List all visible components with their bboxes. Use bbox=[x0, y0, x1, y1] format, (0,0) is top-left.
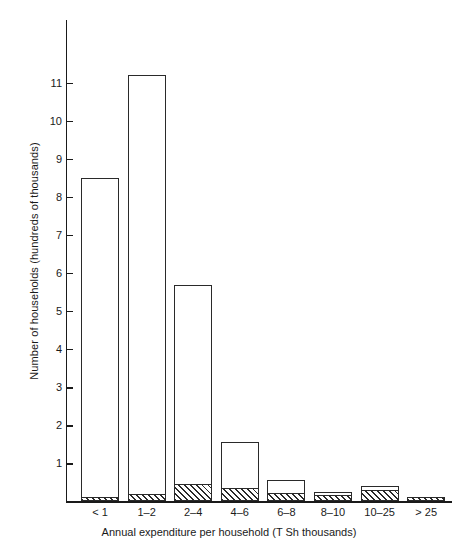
bar-segment-open bbox=[128, 75, 166, 501]
bar-5 bbox=[314, 492, 352, 502]
x-tick-label-1: 1–2 bbox=[123, 507, 170, 518]
y-tick-label: 11 bbox=[51, 77, 62, 88]
y-tick-label: 1 bbox=[56, 458, 62, 469]
x-axis-title: Annual expenditure per household (T Sh t… bbox=[0, 526, 458, 538]
y-tick-mark bbox=[67, 159, 73, 160]
plot-area: 1234567891011 < 11–22–44–66–88–1010–25> … bbox=[66, 14, 454, 506]
y-tick-label: 7 bbox=[56, 230, 62, 241]
bar-segment-hatched bbox=[81, 497, 119, 501]
bar-segment-open bbox=[174, 285, 212, 502]
bar-segment-open bbox=[81, 178, 119, 501]
y-axis-title: Number of households (hundreds of thousa… bbox=[28, 111, 40, 411]
x-tick-label-7: > 25 bbox=[403, 507, 450, 518]
bar-segment-hatched bbox=[361, 490, 399, 501]
y-tick-mark bbox=[67, 83, 73, 84]
y-tick-label: 2 bbox=[56, 420, 62, 431]
bar-1 bbox=[128, 75, 166, 501]
histogram-figure: Number of households (hundreds of thousa… bbox=[0, 0, 458, 552]
y-tick-mark bbox=[67, 121, 73, 122]
y-tick-label: 10 bbox=[50, 115, 62, 126]
y-tick-mark bbox=[67, 387, 73, 388]
bar-segment-hatched bbox=[128, 494, 166, 502]
y-tick-label: 4 bbox=[56, 344, 62, 355]
y-tick-label: 5 bbox=[56, 306, 62, 317]
y-axis-line bbox=[66, 20, 67, 502]
y-tick-mark bbox=[67, 463, 73, 464]
y-tick-mark bbox=[67, 425, 73, 426]
bar-3 bbox=[221, 442, 259, 501]
y-tick-label: 8 bbox=[56, 192, 62, 203]
bar-segment-hatched bbox=[407, 497, 445, 501]
y-tick-mark bbox=[67, 273, 73, 274]
y-tick-label: 3 bbox=[56, 382, 62, 393]
bar-segment-hatched bbox=[174, 484, 212, 501]
y-tick-mark bbox=[67, 349, 73, 350]
y-tick-label: 6 bbox=[56, 268, 62, 279]
bar-segment-hatched bbox=[221, 488, 259, 501]
bar-7 bbox=[407, 497, 445, 502]
bar-segment-hatched bbox=[314, 495, 352, 502]
bar-0 bbox=[81, 178, 119, 501]
bar-2 bbox=[174, 285, 212, 502]
y-tick-mark bbox=[67, 235, 73, 236]
x-tick-label-4: 6–8 bbox=[263, 507, 310, 518]
x-axis-line bbox=[66, 501, 452, 502]
bar-6 bbox=[361, 486, 399, 501]
y-tick-mark bbox=[67, 311, 73, 312]
x-tick-label-6: 10–25 bbox=[356, 507, 403, 518]
x-tick-label-5: 8–10 bbox=[310, 507, 357, 518]
x-tick-label-2: 2–4 bbox=[170, 507, 217, 518]
x-tick-label-3: 4–6 bbox=[217, 507, 264, 518]
y-tick-mark bbox=[67, 197, 73, 198]
bar-segment-hatched bbox=[267, 493, 305, 501]
bar-4 bbox=[267, 480, 305, 501]
y-tick-label: 9 bbox=[56, 153, 62, 164]
x-tick-label-0: < 1 bbox=[77, 507, 124, 518]
